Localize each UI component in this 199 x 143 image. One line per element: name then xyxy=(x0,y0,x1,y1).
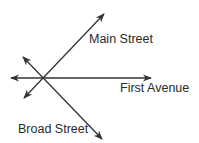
main-street-line xyxy=(24,14,104,98)
first-avenue-label: First Avenue xyxy=(120,81,189,95)
main-street-label: Main Street xyxy=(89,32,153,46)
broad-street: Broad Street xyxy=(18,57,102,139)
street-intersection-diagram: Main Street First Avenue Broad Street xyxy=(0,0,199,143)
first-avenue: First Avenue xyxy=(11,78,189,95)
broad-street-label: Broad Street xyxy=(18,122,89,136)
